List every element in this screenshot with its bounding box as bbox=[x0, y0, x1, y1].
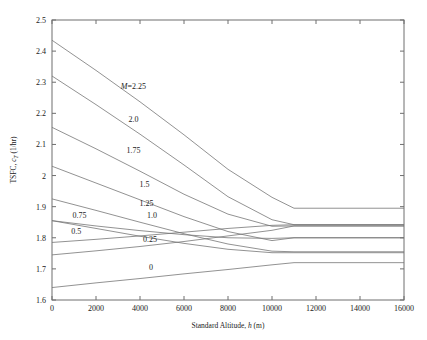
x-tick-label: 16000 bbox=[394, 304, 414, 313]
curve-m1.75 bbox=[52, 127, 404, 226]
curve-label-m1.25: 1.25 bbox=[140, 199, 154, 208]
y-tick-label: 1.6 bbox=[36, 296, 46, 305]
curve-label-m0.75: 0.75 bbox=[73, 211, 87, 220]
x-tick-label: 10000 bbox=[262, 304, 282, 313]
axis-titles-group: Standard Altitude, h (m)TSFC, cT (1/hr) bbox=[9, 136, 265, 330]
curve-label-m0: 0 bbox=[149, 263, 153, 272]
plot-frame bbox=[52, 20, 404, 300]
y-tick-label: 2 bbox=[42, 172, 46, 181]
curve-m1.0 bbox=[52, 221, 404, 253]
curve-m0 bbox=[52, 263, 404, 288]
x-tick-label: 4000 bbox=[132, 304, 148, 313]
curve-label-m1.0: 1.0 bbox=[147, 211, 157, 220]
curve-label-m2.0: 2.0 bbox=[128, 115, 138, 124]
curve-m2.25 bbox=[52, 40, 404, 208]
curve-label-m0.25: 0.25 bbox=[143, 235, 157, 244]
y-axis-ticks: 1.61.71.81.922.12.22.32.42.5 bbox=[36, 16, 404, 305]
y-tick-label: 2.3 bbox=[36, 78, 46, 87]
y-tick-label: 2.4 bbox=[36, 47, 46, 56]
y-tick-label: 1.7 bbox=[36, 265, 46, 274]
x-tick-label: 8000 bbox=[220, 304, 236, 313]
curve-m0.5 bbox=[52, 225, 404, 243]
x-tick-label: 12000 bbox=[306, 304, 326, 313]
y-tick-label: 2.5 bbox=[36, 16, 46, 25]
x-tick-label: 6000 bbox=[176, 304, 192, 313]
y-axis-title: TSFC, cT (1/hr) bbox=[9, 136, 19, 184]
curve-label-m1.75: 1.75 bbox=[126, 146, 140, 155]
x-tick-label: 2000 bbox=[88, 304, 104, 313]
x-axis-title: Standard Altitude, h (m) bbox=[192, 321, 265, 330]
y-tick-label: 2.1 bbox=[36, 140, 46, 149]
curve-label-m0.5: 0.5 bbox=[71, 227, 81, 236]
y-tick-label: 1.9 bbox=[36, 203, 46, 212]
curve-label-m1.5: 1.5 bbox=[139, 180, 149, 189]
curve-series-group bbox=[52, 40, 404, 287]
tsfc-altitude-chart: 0200040006000800010000120001400016000 1.… bbox=[0, 0, 427, 340]
y-tick-label: 1.8 bbox=[36, 234, 46, 243]
x-tick-label: 0 bbox=[50, 304, 54, 313]
curve-m1.25 bbox=[52, 199, 404, 252]
chart-canvas: 0200040006000800010000120001400016000 1.… bbox=[0, 0, 427, 340]
y-tick-label: 2.2 bbox=[36, 109, 46, 118]
curve-m1.5 bbox=[52, 166, 404, 240]
x-tick-label: 14000 bbox=[350, 304, 370, 313]
curve-labels-group: M=2.252.01.751.51.251.00.750.50.250 bbox=[71, 82, 157, 272]
curve-m2.0 bbox=[52, 76, 404, 225]
plot-border bbox=[52, 20, 404, 300]
curve-label-m2.25: M=2.25 bbox=[120, 82, 146, 91]
